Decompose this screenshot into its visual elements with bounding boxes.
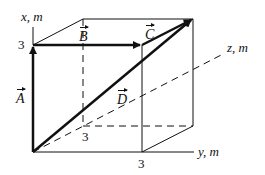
vector-A-label: A: [16, 92, 25, 106]
vector-B-label: B: [79, 30, 88, 44]
z-tick-label: 3: [82, 130, 89, 143]
vector-D-label: D: [117, 93, 127, 107]
x-axis-label: x, m: [21, 10, 43, 23]
vector-C-label: C: [145, 28, 154, 42]
z-axis-label: z, m: [227, 41, 248, 54]
y-axis-label: y, m: [198, 145, 219, 158]
vector-cube-diagram: x, m 3 y, m 3 z, m 3 A B C D: [0, 0, 265, 175]
vector-D: [33, 20, 191, 152]
z-axis-line: [33, 53, 225, 152]
x-tick-label: 3: [18, 38, 25, 51]
cube-drawing: [0, 0, 265, 175]
y-tick-label: 3: [138, 157, 145, 170]
